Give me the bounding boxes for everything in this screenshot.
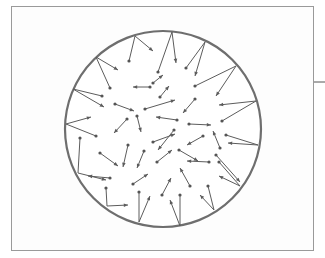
molecule-dot	[172, 128, 175, 131]
molecule-dot	[201, 134, 204, 137]
molecule-dot	[125, 117, 128, 120]
molecule-dot	[214, 153, 217, 156]
molecule-dot	[218, 146, 221, 149]
molecule-dot	[207, 160, 210, 163]
molecule-dot	[184, 66, 187, 69]
molecule-dot	[98, 151, 101, 154]
molecule-dot	[151, 140, 154, 143]
molecule-dot	[155, 160, 158, 163]
gas-molecules-diagram	[0, 0, 325, 258]
molecule-dot	[108, 86, 111, 89]
molecule-dot	[148, 85, 151, 88]
molecule-dot	[193, 97, 196, 100]
molecule-dot	[78, 136, 81, 139]
molecule-dot	[187, 122, 190, 125]
molecule-dot	[193, 84, 196, 87]
molecule-dot	[220, 119, 223, 122]
molecule-dot	[126, 143, 129, 146]
molecule-dot	[135, 114, 138, 117]
molecule-dot	[188, 184, 191, 187]
molecule-dot	[108, 176, 111, 179]
molecule-dot	[175, 118, 178, 121]
molecule-dot	[177, 148, 180, 151]
molecule-dot	[158, 95, 161, 98]
molecule-dot	[100, 94, 103, 97]
molecule-dot	[160, 193, 163, 196]
molecule-dot	[224, 133, 227, 136]
molecule-dot	[113, 102, 116, 105]
molecule-dot	[151, 81, 154, 84]
molecule-dot	[104, 186, 107, 189]
molecule-dot	[156, 70, 159, 73]
molecule-dot	[206, 184, 209, 187]
molecule-dot	[143, 107, 146, 110]
container-wall	[65, 31, 261, 227]
molecule-dot	[217, 160, 220, 163]
molecule-dot	[127, 59, 130, 62]
molecule-dot	[137, 190, 140, 193]
molecule-dot	[142, 149, 145, 152]
molecule-dot	[131, 182, 134, 185]
molecule-dot	[178, 193, 181, 196]
molecule-dot	[94, 134, 97, 137]
